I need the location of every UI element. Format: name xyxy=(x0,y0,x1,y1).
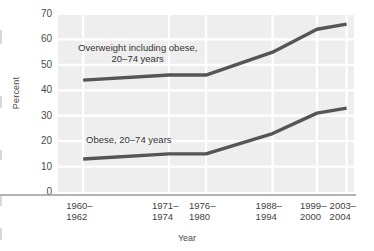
chart-figure: Percent 706050403020100 Overweight inclu… xyxy=(0,0,374,251)
y-tick-label: 10 xyxy=(26,162,52,172)
x-tick-label: 2003– 2004 xyxy=(330,201,356,222)
y-tick-label: 20 xyxy=(26,136,52,146)
y-axis-title: Percent xyxy=(11,63,21,123)
x-tick-label: 1988– 1994 xyxy=(256,201,282,222)
x-tick-label: 1971– 1974 xyxy=(152,201,178,222)
y-tick-label: 30 xyxy=(26,111,52,121)
page-edge-artifact xyxy=(0,196,2,206)
overweight-series-label: Overweight including obese, 20–74 years xyxy=(78,42,197,64)
page-edge-artifact xyxy=(0,150,2,160)
y-tick-label: 70 xyxy=(26,9,52,19)
y-tick-label: 50 xyxy=(26,60,52,70)
plot-svg xyxy=(58,14,354,192)
x-axis-title: Year xyxy=(0,233,374,243)
x-tick-label: 1999– 2000 xyxy=(300,201,326,222)
plot-area xyxy=(58,14,354,192)
page-edge-artifact xyxy=(0,30,2,44)
x-tick-label: 1976– 1980 xyxy=(189,201,215,222)
page-edge-artifact xyxy=(0,96,2,108)
obese-series-label: Obese, 20–74 years xyxy=(86,134,172,145)
y-tick-label: 60 xyxy=(26,34,52,44)
y-tick-label: 40 xyxy=(26,85,52,95)
x-tick-label: 1960– 1962 xyxy=(66,201,92,222)
